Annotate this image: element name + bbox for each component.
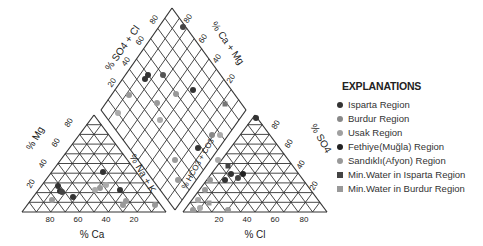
tick-label: 60 [271, 215, 280, 224]
sample-point [223, 102, 228, 107]
tick-label: 60 [283, 137, 296, 150]
sample-point [120, 202, 126, 208]
legend-item: Usak Region [336, 125, 483, 139]
sample-point [240, 171, 246, 177]
tick-label: 40 [211, 52, 224, 65]
sample-point [126, 92, 132, 98]
tick-label: 20 [25, 177, 38, 190]
sample-point [152, 202, 158, 208]
tick-label: 40 [37, 157, 50, 170]
tick-label: 60 [50, 136, 63, 149]
sample-point [207, 177, 213, 183]
sample-point [180, 24, 186, 30]
circle-marker-icon [336, 113, 344, 124]
sample-point [217, 132, 223, 138]
tick-label: 60 [197, 32, 210, 45]
sample-point [190, 87, 196, 93]
legend-label: Sandıklı(Afyon) Region [348, 155, 446, 166]
tick-label: 80 [300, 215, 309, 224]
tick-label: 60 [74, 215, 83, 224]
legend-label: Burdur Region [348, 113, 409, 124]
sample-point [209, 132, 215, 138]
sample-point [190, 207, 196, 213]
legend-item: Min.Water in Burdur Region [336, 181, 483, 195]
sample-point [92, 187, 98, 193]
tick-label: 20 [215, 215, 224, 224]
circle-marker-icon [336, 155, 344, 166]
axis-label-cl: % Cl [244, 229, 265, 240]
circle-marker-icon [336, 99, 344, 110]
legend-label: Isparta Region [348, 99, 410, 110]
sample-point [142, 76, 148, 82]
sample-point [103, 182, 109, 188]
sample-point [59, 189, 65, 195]
sample-point [226, 164, 231, 169]
tick-label: 20 [308, 179, 321, 192]
sample-point [154, 100, 160, 106]
legend-item: Fethiye(Muğla) Region [336, 139, 483, 153]
sample-point [225, 207, 231, 213]
sample-point [173, 91, 179, 97]
tick-label: 80 [270, 118, 283, 131]
sample-point [100, 169, 106, 175]
legend-label: Usak Region [348, 127, 402, 138]
tick-label: 80 [182, 12, 195, 25]
sample-point [235, 175, 241, 181]
legend-item: Burdur Region [336, 111, 483, 125]
sample-point [117, 187, 123, 193]
circle-marker-icon [336, 141, 344, 152]
sample-point [157, 117, 163, 123]
tick-label: 20 [130, 215, 139, 224]
legend-item: Isparta Region [336, 97, 483, 111]
piper-diagram: 80604020% Ca20406080% Mg20406080% Cl2040… [0, 0, 335, 246]
tick-label: 80 [46, 215, 55, 224]
sample-point [115, 110, 121, 116]
square-marker-icon [336, 183, 344, 194]
legend-label: Min.Water in Isparta Region [348, 169, 465, 180]
axis-label-so4: % SO4 [308, 122, 334, 155]
axis-label-ca: % Ca [80, 229, 105, 240]
tick-label: 40 [295, 158, 308, 171]
sample-point [202, 187, 208, 193]
sample-point [55, 183, 61, 189]
sample-point [49, 197, 55, 203]
sample-point [175, 177, 181, 183]
sample-point [253, 115, 259, 121]
tick-label: 40 [243, 215, 252, 224]
tick-label: 40 [102, 215, 111, 224]
legend-item: Min.Water in Isparta Region [336, 167, 483, 181]
sample-point [228, 171, 234, 177]
tick-label: 80 [148, 13, 161, 26]
circle-marker-icon [336, 127, 344, 138]
sample-point [197, 205, 203, 211]
legend: EXPLANATIONS Isparta RegionBurdur Region… [336, 80, 483, 195]
legend-label: Fethiye(Muğla) Region [348, 141, 444, 152]
sample-point [160, 72, 166, 78]
legend-label: Min.Water in Burdur Region [348, 183, 465, 194]
legend-title: EXPLANATIONS [342, 80, 483, 92]
axis-label-mg: % Mg [24, 124, 46, 152]
sample-point [215, 157, 221, 163]
square-marker-icon [336, 169, 344, 180]
sample-point [70, 194, 76, 200]
tick-label: 80 [63, 116, 76, 129]
sample-point [207, 201, 212, 206]
sample-point [222, 177, 228, 183]
legend-item: Sandıklı(Afyon) Region [336, 153, 483, 167]
sample-point [172, 157, 178, 163]
sample-point [195, 197, 201, 203]
